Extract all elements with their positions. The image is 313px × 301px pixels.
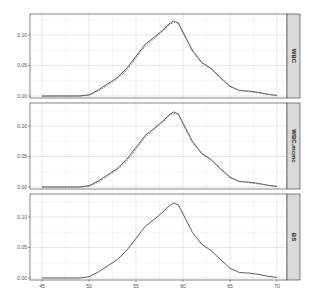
x-tick-label: 45 [39,283,45,289]
x-tick-label: 70 [274,283,280,289]
facet-panel-wbc-mcmc: 0.000.050.10WBC.mcmc [17,103,300,190]
y-tick-label: 0.05 [17,153,27,159]
y-tick-label: 0.00 [17,275,27,281]
facet-strip-label: WBC [291,49,297,64]
y-tick-label: 0.10 [17,123,27,129]
y-tick-label: 0.00 [17,184,27,190]
panel-background [30,194,287,280]
y-tick-label: 0.10 [17,32,27,38]
facet-strip-label: BS [291,233,297,241]
y-tick-label: 0.00 [17,93,27,99]
x-tick-label: 65 [227,283,233,289]
x-tick-label: 50 [86,283,92,289]
y-tick-label: 0.10 [17,214,27,220]
y-tick-label: 0.05 [17,62,27,68]
faceted-density-chart: 0.000.050.10WBC0.000.050.10WBC.mcmc0.000… [0,0,313,301]
x-tick-label: 55 [133,283,139,289]
facet-panels: 0.000.050.10WBC0.000.050.10WBC.mcmc0.000… [17,14,300,281]
x-tick-label: 60 [180,283,186,289]
facet-panel-wbc: 0.000.050.10WBC [17,14,300,99]
facet-strip-label: WBC.mcmc [291,129,297,163]
x-axis: 455055606570 [39,280,280,289]
y-tick-label: 0.05 [17,244,27,250]
panel-background [30,14,287,98]
facet-panel-bs: 0.000.050.10BS [17,194,300,281]
panel-background [30,103,287,189]
